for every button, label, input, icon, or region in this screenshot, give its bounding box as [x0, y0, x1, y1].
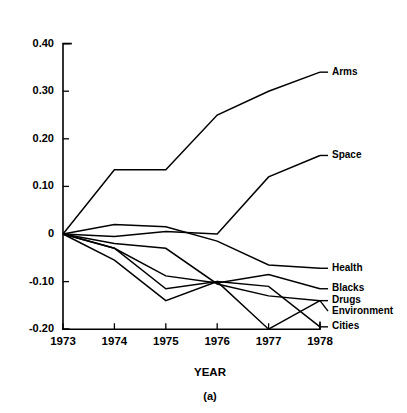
y-axis-tick-labels: 0.400.300.200.100-0.10-0.20: [29, 37, 54, 335]
y-tick-label-5: -0.10: [29, 275, 54, 287]
y-tick-label-0: 0.40: [33, 37, 54, 49]
x-axis-title: YEAR: [194, 366, 227, 378]
x-tick-label-4: 1977: [256, 335, 282, 347]
series-label-cities: Cities: [332, 320, 360, 331]
series-label-environment: Environment: [332, 305, 394, 316]
x-tick-label-3: 1976: [204, 335, 230, 347]
series-label-arms: Arms: [332, 66, 358, 77]
figure-root: 0.400.300.200.100-0.10-0.20 197319741975…: [0, 0, 407, 413]
series-line-health: [63, 224, 320, 268]
x-axis-ticks: [63, 323, 320, 329]
series-line-blacks: [63, 234, 320, 289]
series-labels: ArmsSpaceHealthBlacksDrugsEnvironmentCit…: [332, 66, 394, 332]
y-tick-label-4: 0: [48, 227, 54, 239]
series-line-cities: [63, 234, 320, 327]
leader-line-environment: [320, 301, 328, 311]
y-tick-label-2: 0.20: [33, 132, 54, 144]
line-chart: 0.400.300.200.100-0.10-0.20 197319741975…: [0, 0, 407, 413]
data-series-group: [63, 72, 320, 329]
series-label-drugs: Drugs: [332, 294, 361, 305]
series-line-space: [63, 155, 320, 236]
figure-caption: (a): [203, 390, 217, 402]
series-leader-lines: [320, 72, 328, 327]
x-axis-tick-labels: 197319741975197619771978: [50, 335, 333, 347]
x-axis-line: [63, 322, 320, 329]
y-tick-label-6: -0.20: [29, 322, 54, 334]
x-tick-label-0: 1973: [50, 335, 76, 347]
x-tick-label-5: 1978: [307, 335, 333, 347]
series-line-arms: [63, 72, 320, 234]
series-label-health: Health: [332, 262, 363, 273]
y-axis-ticks: [63, 44, 69, 330]
y-tick-label-1: 0.30: [33, 84, 54, 96]
x-tick-label-1: 1974: [102, 335, 128, 347]
x-tick-label-2: 1975: [153, 335, 179, 347]
series-label-blacks: Blacks: [332, 282, 365, 293]
series-label-space: Space: [332, 149, 362, 160]
series-line-environment: [63, 234, 320, 329]
y-tick-label-3: 0.10: [33, 179, 54, 191]
